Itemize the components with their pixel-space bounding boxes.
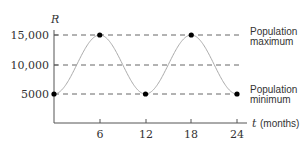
x-tick-label-24: 24 — [230, 128, 244, 141]
data-point — [189, 32, 194, 37]
x-tick-label-6: 6 — [97, 128, 104, 141]
x-tick-label-18: 18 — [184, 128, 198, 141]
x-axis-label-unit: (months) — [260, 118, 299, 129]
chart: R 15,000 10,000 5000 6 12 18 24 t (month… — [0, 0, 308, 144]
y-tick-label-5000: 5000 — [21, 88, 49, 101]
population-curve — [54, 35, 237, 94]
data-point — [234, 91, 239, 96]
annotation-min-line2: minimum — [250, 94, 291, 105]
data-point — [143, 91, 148, 96]
y-tick-label-10000: 10,000 — [11, 59, 50, 72]
x-axis-label-var: t — [252, 117, 257, 130]
y-axis-label: R — [50, 13, 59, 26]
x-tick-label-12: 12 — [139, 128, 153, 141]
annotation-max-line2: maximum — [250, 36, 293, 47]
data-point — [97, 32, 102, 37]
y-tick-label-15000: 15,000 — [11, 29, 50, 42]
marked-points — [51, 32, 239, 96]
data-point — [51, 91, 56, 96]
